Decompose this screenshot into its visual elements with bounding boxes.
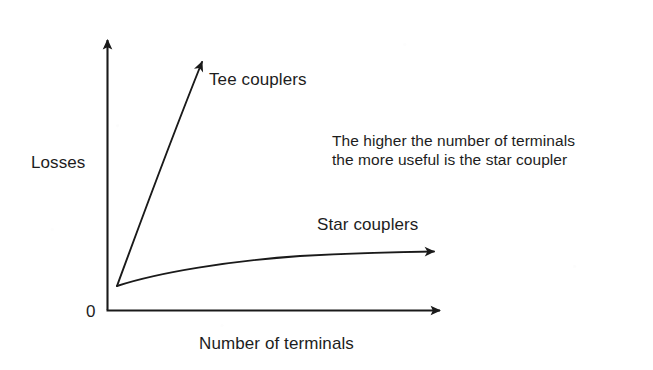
star-couplers-label: Star couplers xyxy=(317,215,418,235)
tee-couplers-curve xyxy=(117,62,202,286)
x-axis-label: Number of terminals xyxy=(199,334,354,354)
star-couplers-curve xyxy=(117,252,434,287)
origin-label: 0 xyxy=(86,302,95,322)
y-axis-label: Losses xyxy=(31,153,85,173)
figure-canvas: Losses 0 Number of terminals Tee coupler… xyxy=(0,0,653,370)
usefulness-annotation-line-1: The higher the number of terminals xyxy=(332,131,575,150)
usefulness-annotation: The higher the number of terminals the m… xyxy=(332,131,575,170)
usefulness-annotation-line-2: the more useful is the star coupler xyxy=(332,150,575,169)
tee-couplers-label: Tee couplers xyxy=(209,70,307,90)
diagram-svg xyxy=(0,0,653,370)
